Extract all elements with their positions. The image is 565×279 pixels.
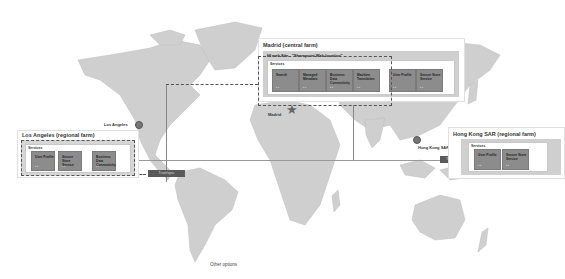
hong-kong-farm-title: Hong Kong SAR (regional farm) bbox=[453, 131, 536, 137]
city-label-hong-kong: Hong Kong SAR bbox=[418, 145, 449, 150]
tile-label: Secure Store Service bbox=[62, 155, 82, 167]
tile-label: User Profile bbox=[393, 73, 416, 77]
connector-line-horizontal bbox=[130, 160, 460, 161]
service-tile-secure-store[interactable]: Secure Store Service ▪ ▪ bbox=[502, 149, 529, 170]
connector-line-madrid-down bbox=[353, 105, 354, 160]
connector-line-la-madrid-vertical bbox=[166, 84, 167, 182]
los-angeles-services: Services User Profile ▪ ▪ Secure Store S… bbox=[25, 144, 131, 173]
tile-label: User Profile bbox=[35, 155, 55, 159]
other-options-label: Other options bbox=[210, 262, 237, 267]
hong-kong-services-label: Services bbox=[471, 144, 485, 148]
service-tile-user-profile[interactable]: User Profile ▪ ▪ bbox=[389, 69, 416, 92]
city-label-madrid: Madrid bbox=[268, 112, 281, 117]
tile-label: Secure Store Service bbox=[420, 73, 443, 81]
los-angeles-location-icon bbox=[135, 121, 143, 129]
tile-label: User Profile bbox=[478, 153, 501, 157]
hong-kong-location-icon bbox=[413, 136, 421, 144]
los-angeles-site-outline: Services User Profile ▪ ▪ Secure Store S… bbox=[21, 140, 135, 176]
los-angeles-farm-title: Los Angeles (regional farm) bbox=[22, 132, 95, 138]
hong-kong-site: Services User Profile ▪ ▪ Secure Store S… bbox=[461, 139, 561, 175]
madrid-star-icon: ★ bbox=[286, 103, 298, 116]
los-angeles-connector-box: Trust/sync bbox=[148, 170, 185, 177]
los-angeles-services-label: Services bbox=[28, 146, 42, 150]
tile-label: Secure Store Service bbox=[506, 153, 529, 161]
madrid-farm-title: Madrid (central farm) bbox=[263, 42, 318, 48]
tile-label: Business Data Connectivity bbox=[96, 155, 116, 167]
service-tile-user-profile[interactable]: User Profile ▪ ▪ bbox=[31, 151, 55, 171]
tile-icons: ▪ ▪ bbox=[96, 164, 99, 168]
tile-icons: ▪ ▪ bbox=[506, 163, 509, 167]
tile-icons: ▪ ▪ bbox=[478, 163, 481, 167]
service-tile-business-data-connectivity[interactable]: Business Data Connectivity ▪ ▪ bbox=[92, 151, 116, 171]
city-label-los-angeles: Los Angeles bbox=[104, 122, 128, 127]
service-tile-secure-store[interactable]: Secure Store Service ▪ ▪ bbox=[58, 151, 82, 171]
madrid-shared-services-outline bbox=[258, 56, 392, 106]
tile-icons: ▪ ▪ bbox=[62, 164, 65, 168]
connector-line-la-madrid-top bbox=[166, 84, 258, 85]
tile-icons: ▪ ▪ bbox=[420, 85, 423, 89]
hong-kong-services: Services User Profile ▪ ▪ Secure Store S… bbox=[468, 142, 548, 172]
hong-kong-regional-farm: Hong Kong SAR (regional farm) Services U… bbox=[448, 127, 565, 179]
service-tile-secure-store[interactable]: Secure Store Service ▪ ▪ bbox=[416, 69, 443, 92]
tile-icons: ▪ ▪ bbox=[35, 164, 38, 168]
tile-icons: ▪ ▪ bbox=[393, 85, 396, 89]
los-angeles-regional-farm: Los Angeles (regional farm) Services Use… bbox=[17, 130, 139, 178]
service-tile-user-profile[interactable]: User Profile ▪ ▪ bbox=[474, 149, 501, 170]
